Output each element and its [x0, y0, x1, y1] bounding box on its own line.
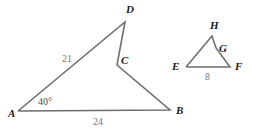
side-length-label-EF: 8	[205, 71, 210, 82]
angle-measure-label-A: 40°	[38, 96, 52, 107]
geometry-diagram: D C A B 21 24 40° H G E F 8	[0, 0, 253, 130]
large-triangle-group: D C A B 21 24 40°	[7, 3, 183, 127]
side-length-label-AB: 24	[93, 116, 103, 127]
vertex-label-D: D	[125, 3, 134, 15]
vertex-label-H: H	[209, 19, 219, 31]
vertex-label-C: C	[121, 54, 129, 66]
vertex-label-G: G	[219, 42, 227, 54]
vertex-label-E: E	[171, 60, 179, 72]
vertex-label-B: B	[175, 104, 183, 116]
vertex-label-F: F	[234, 60, 243, 72]
side-length-label-AD: 21	[62, 53, 72, 64]
small-triangle-group: H G E F 8	[171, 19, 243, 82]
vertex-label-A: A	[7, 107, 15, 119]
